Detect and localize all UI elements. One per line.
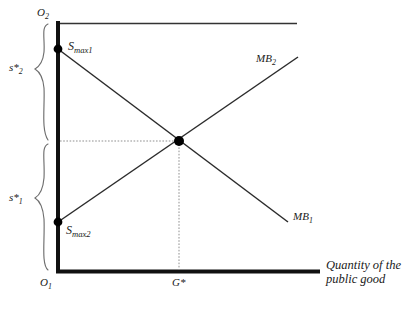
x-axis-title-line2: public good [326,272,401,286]
point-equilibrium [174,136,184,146]
brace-label-share-2: s*2 [9,61,23,77]
point-label-smax1-subscript: max1 [74,45,93,55]
brace-share-2 [35,24,48,140]
brace-label-share-2-subscript: 2 [19,67,23,76]
mb1-curve [58,49,288,222]
origin-label-o1: O1 [40,276,52,292]
diagram-canvas: O2 O1 Smax1 Smax2 MB2 MB1 s*2 s*1 G* Qua… [0,0,414,309]
curve-label-mb1-subscript: 1 [309,216,313,225]
curve-label-mb2-subscript: 2 [272,58,276,67]
point-smax2 [54,218,63,227]
brace-label-share-1-subscript: 1 [19,197,23,206]
curve-label-mb2: MB2 [256,52,276,68]
point-smax1 [54,45,63,54]
origin-label-o2: O2 [37,6,49,22]
brace-label-share-1: s*1 [9,191,23,207]
point-label-smax2: Smax2 [66,224,91,240]
point-label-smax1: Smax1 [68,40,93,56]
x-axis-title: Quantity of the public good [326,258,401,286]
curve-label-mb1: MB1 [293,210,313,226]
origin-label-o2-subscript: 2 [45,12,49,21]
x-axis-title-line1: Quantity of the [326,258,401,272]
brace-share-1 [35,144,48,270]
origin-label-o1-subscript: 1 [48,282,52,291]
x-tick-label-gstar: G* [172,276,185,288]
point-label-smax2-subscript: max2 [72,229,91,239]
